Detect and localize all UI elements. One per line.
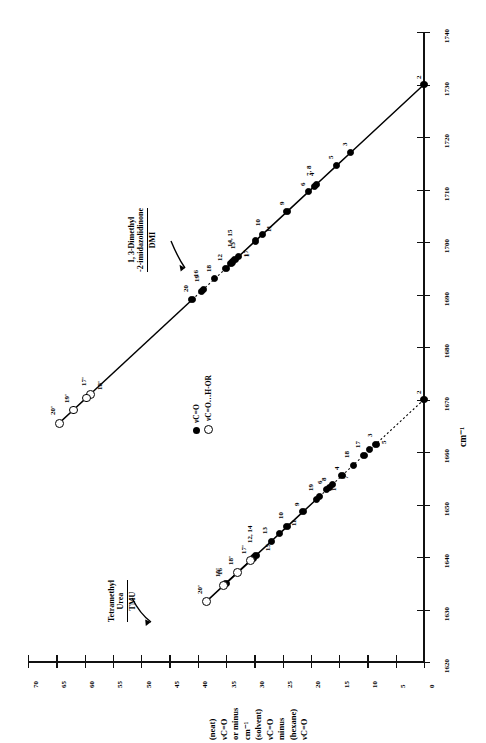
y-axis-title-line: νC=O <box>220 719 229 740</box>
dmi-arrow-head <box>180 265 186 272</box>
data-point-label: 10 <box>277 512 285 519</box>
figure-canvas: 1620163016401650166016701680169017001710… <box>0 0 486 743</box>
data-point-label: 12 <box>216 254 224 261</box>
data-point-label: 20' <box>49 406 57 415</box>
y-axis-tick <box>311 655 312 668</box>
dmi-bridge-line <box>90 300 192 395</box>
annotation-dmi: 1, 3-Dimethyl -2-imidazolidinone DMI <box>128 208 158 272</box>
tmu-arrow-head <box>145 619 151 626</box>
y-axis-title-line: νC=O <box>300 719 309 740</box>
x-axis-title: cm⁻¹ <box>457 427 468 447</box>
data-point-label: 14, 15 <box>226 229 234 247</box>
data-point <box>202 597 211 606</box>
x-axis-tick-label: 1620 <box>443 659 451 673</box>
y-axis-title-line: cm⁻¹ <box>243 722 252 740</box>
open-circle-icon <box>204 425 213 434</box>
data-point <box>211 275 218 282</box>
data-point-label: 15 <box>264 544 272 551</box>
y-axis-tick-label: 5 <box>399 685 407 689</box>
data-point-label: 2 <box>415 75 423 79</box>
y-axis-tick <box>254 655 255 668</box>
y-axis-tick <box>85 655 86 668</box>
y-axis-tick <box>113 655 114 668</box>
data-point <box>305 188 312 195</box>
y-axis-tick <box>28 655 29 668</box>
x-axis-tick <box>417 190 430 191</box>
y-axis-tick <box>396 655 397 668</box>
data-point-label: 11 <box>265 225 273 232</box>
data-point <box>313 496 320 503</box>
data-point-label: 19' <box>63 394 71 403</box>
y-axis-tick <box>283 655 284 668</box>
y-axis-tick-label: 55 <box>116 681 124 688</box>
x-axis-tick <box>417 347 430 348</box>
annotation-dmi-line2: -2-imidazolidinone <box>137 208 146 272</box>
data-point-label: 5 <box>327 155 335 159</box>
data-point-label: 17' <box>240 545 248 554</box>
y-axis-tick-label: 45 <box>173 681 181 688</box>
data-point-label: 5 <box>380 440 388 444</box>
x-axis-tick-label: 1690 <box>443 292 451 306</box>
y-axis-title-line: minus <box>277 718 286 740</box>
y-axis-tick <box>339 655 340 668</box>
x-axis-tick-label: 1670 <box>443 397 451 411</box>
x-axis-tick-label: 1720 <box>443 134 451 148</box>
y-axis-title-line: (hexane) <box>289 709 298 740</box>
x-axis-tick-label: 1640 <box>443 554 451 568</box>
data-point <box>333 162 340 169</box>
y-axis-tick-label: 15 <box>343 681 351 688</box>
legend: νC=O νC=O…H-OR <box>192 375 216 434</box>
x-axis-tick <box>417 505 430 506</box>
data-point <box>283 208 290 215</box>
y-axis-title-line: (neat) <box>208 719 217 740</box>
y-axis-tick <box>424 655 425 668</box>
x-axis-tick <box>417 242 430 243</box>
data-point-label: 10 <box>254 219 262 226</box>
data-point-label: 7, 8 <box>305 166 313 177</box>
data-point-label: 18' <box>227 556 235 565</box>
dmi-arrow-curve <box>171 241 185 268</box>
y-axis-tick-label: 50 <box>145 681 153 688</box>
data-point <box>69 406 78 415</box>
data-point <box>347 149 354 156</box>
x-axis-tick-label: 1680 <box>443 344 451 358</box>
data-point <box>222 265 229 272</box>
data-point-label: 19' <box>214 568 222 577</box>
y-axis-title-line: or minus <box>231 708 240 740</box>
data-point-label: 7 <box>342 475 350 479</box>
filled-circle-icon <box>193 427 200 434</box>
annotation-dmi-arrow-group <box>0 0 486 743</box>
data-point-label: 17' <box>80 377 88 386</box>
y-axis-tick <box>367 655 368 668</box>
y-axis-tick-label: 10 <box>371 681 379 688</box>
data-point <box>276 530 283 537</box>
x-axis-tick-label: 1740 <box>443 29 451 43</box>
data-point <box>198 288 205 295</box>
data-point-label: 3 <box>341 142 349 146</box>
x-axis-tick-label: 1660 <box>443 449 451 463</box>
data-point <box>420 81 427 88</box>
y-axis-tick-label: 35 <box>230 681 238 688</box>
x-axis-tick <box>417 137 430 138</box>
y-axis-tick <box>56 655 57 668</box>
data-point <box>350 462 357 469</box>
data-point-label: 18 <box>343 451 351 458</box>
data-point-label: 18 <box>205 265 213 272</box>
y-axis-tick-label: 0 <box>428 685 436 689</box>
y-axis-tick-label: 25 <box>286 681 294 688</box>
data-point-label: 16 <box>192 270 200 277</box>
x-axis-tick <box>417 32 430 33</box>
x-axis-tick-label: 1700 <box>443 239 451 253</box>
data-point-label: 2 <box>415 390 423 394</box>
data-point <box>420 396 427 403</box>
annotation-tmu-line3: TMU <box>129 580 138 622</box>
data-point-label: 11 <box>290 519 298 526</box>
data-point <box>82 394 91 403</box>
legend-entry-0: νC=O <box>192 375 201 434</box>
data-point-label: 9 <box>293 502 301 506</box>
x-axis-tick <box>417 295 430 296</box>
data-point-label: 17 <box>354 441 362 448</box>
y-axis-tick-label: 70 <box>32 681 40 688</box>
data-point-label: 9 <box>278 201 286 205</box>
y-axis-tick-label: 40 <box>201 681 209 688</box>
